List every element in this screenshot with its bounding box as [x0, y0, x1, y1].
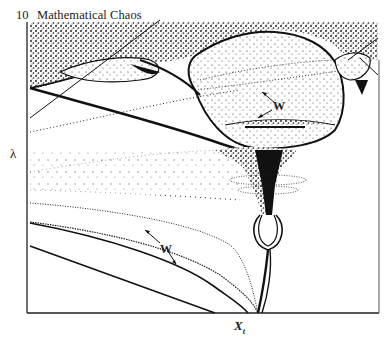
y-axis-label: λ: [10, 146, 16, 162]
x-axis-label: Xt: [234, 318, 245, 336]
central-bubble: [189, 32, 345, 149]
x-axis-subscript: t: [243, 327, 245, 336]
x-axis-symbol: X: [234, 318, 243, 333]
lower-curves: [30, 203, 271, 313]
w-label-upper: W: [273, 99, 285, 113]
w-label-lower: W: [160, 242, 172, 256]
bifurcation-figure: W W: [0, 0, 388, 338]
